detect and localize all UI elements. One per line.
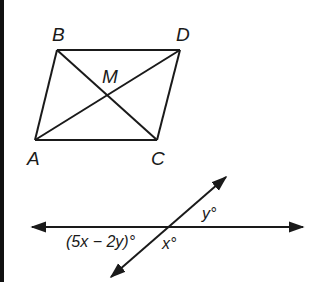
angle-label-5x-minus-2y: (5x − 2y)°: [66, 233, 136, 250]
intersecting-lines-figure: [32, 177, 303, 277]
segment-AB: [35, 50, 57, 140]
vertex-label-B: B: [52, 24, 65, 45]
geometry-figures: B D M A C (5x − 2y)° y° x°: [0, 0, 319, 282]
diagonal-BC: [57, 50, 157, 140]
angle-label-x: x°: [161, 235, 177, 252]
vertex-label-D: D: [176, 24, 190, 45]
parallelogram-figure: [35, 50, 180, 140]
vertex-label-C: C: [151, 148, 165, 169]
angle-label-y: y°: [201, 205, 217, 222]
intersection-label-M: M: [102, 66, 118, 87]
vertex-label-A: A: [26, 148, 40, 169]
segment-DC: [157, 50, 180, 140]
